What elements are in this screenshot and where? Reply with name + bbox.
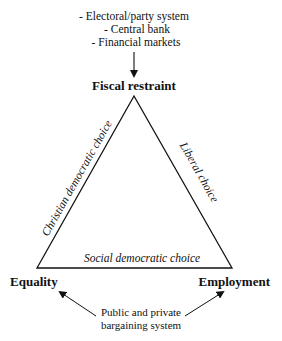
arrow-to-employment-icon (185, 292, 223, 316)
vertex-fiscal-restraint: Fiscal restraint (92, 78, 177, 93)
edge-liberal: Liberal choice (177, 139, 221, 204)
pressure-item: - Electoral/party system (79, 10, 189, 23)
vertex-employment: Employment (199, 274, 271, 289)
edge-social-democratic: Social democratic choice (84, 252, 200, 264)
vertex-equality: Equality (10, 274, 58, 289)
pressure-item: - Financial markets (92, 36, 181, 48)
source-line: Public and private (101, 306, 181, 318)
source-line: bargaining system (101, 319, 182, 331)
trilemma-diagram: - Electoral/party system - Central bank … (0, 0, 282, 341)
pressure-item: - Central bank (104, 23, 170, 35)
edge-christian-democratic: Christian democratic choice (39, 118, 114, 238)
arrow-to-equality-icon (60, 292, 96, 316)
